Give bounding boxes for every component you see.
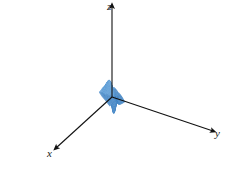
- z-axis-label: z: [107, 1, 111, 12]
- x-axis-line: [56, 97, 112, 148]
- surface-plot-figure: z y x: [0, 0, 228, 183]
- axes-front-surface: [56, 6, 213, 148]
- x-axis-label: x: [47, 148, 52, 159]
- y-axis-line: [112, 97, 213, 131]
- y-axis-label: y: [215, 128, 220, 139]
- surface-plot-canvas: [0, 0, 228, 183]
